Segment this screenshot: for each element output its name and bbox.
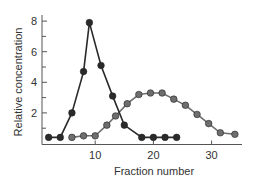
series-dark-series: [45, 19, 180, 140]
series-line: [72, 93, 235, 137]
data-point: [205, 120, 212, 127]
data-point: [121, 122, 128, 129]
series-gray-series: [69, 90, 239, 141]
data-point: [124, 100, 131, 107]
data-point: [194, 111, 201, 118]
data-point: [69, 110, 76, 117]
data-point: [138, 134, 145, 141]
y-tick-label: 8: [31, 15, 37, 27]
data-point: [98, 62, 105, 69]
data-point: [112, 113, 119, 120]
series-layer: [45, 19, 238, 140]
x-tick-label: 30: [205, 149, 217, 161]
data-point: [104, 122, 111, 129]
y-axis-label: Relative concentration: [12, 28, 24, 137]
data-point: [80, 68, 87, 75]
y-tick-label: 4: [31, 76, 37, 88]
x-tick-label: 10: [89, 149, 101, 161]
data-point: [217, 129, 224, 136]
x-axis-label: Fraction number: [114, 165, 194, 177]
data-point: [162, 134, 169, 141]
data-point: [80, 133, 87, 140]
y-tick-label: 6: [31, 46, 37, 58]
data-point: [69, 134, 76, 141]
data-point: [182, 102, 189, 109]
data-point: [147, 90, 154, 97]
data-point: [170, 96, 177, 103]
data-point: [57, 134, 64, 141]
y-tick-label: 2: [31, 107, 37, 119]
data-point: [109, 93, 116, 100]
data-point: [173, 134, 180, 141]
data-point: [92, 133, 99, 140]
data-point: [159, 90, 166, 97]
x-tick-label: 20: [147, 149, 159, 161]
data-point: [232, 131, 239, 138]
data-point: [86, 19, 93, 26]
data-point: [150, 134, 157, 141]
chart: 2468102030 Fraction number Relative conc…: [0, 0, 270, 192]
data-point: [136, 91, 143, 98]
data-point: [45, 134, 52, 141]
